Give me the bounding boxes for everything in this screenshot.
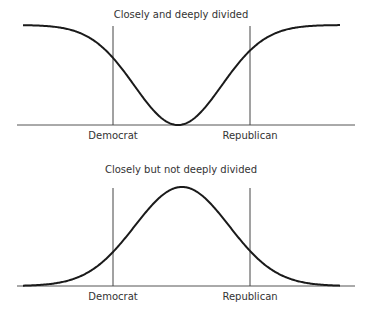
distribution-curve	[23, 25, 340, 125]
democrat-label: Democrat	[88, 291, 137, 302]
panel-deeply-divided: Closely and deeply divided Democrat Repu…	[17, 9, 355, 141]
divided-diagram: Closely and deeply divided Democrat Repu…	[0, 0, 373, 317]
panel-not-deeply-divided: Closely but not deeply divided Democrat …	[17, 164, 355, 302]
republican-label: Republican	[222, 130, 277, 141]
republican-label: Republican	[222, 291, 277, 302]
democrat-label: Democrat	[88, 130, 137, 141]
panel-title: Closely and deeply divided	[114, 9, 249, 20]
distribution-curve	[23, 187, 340, 286]
panel-title: Closely but not deeply divided	[105, 164, 257, 175]
